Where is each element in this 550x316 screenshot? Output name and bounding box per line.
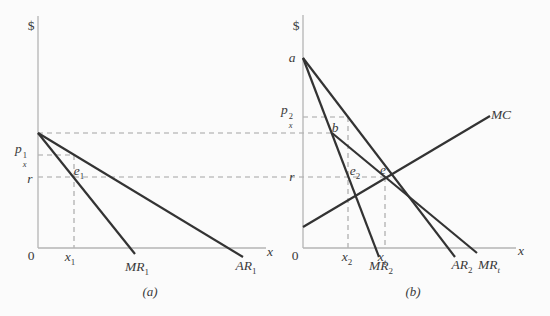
ar1-curve [38, 133, 243, 257]
axes [38, 15, 516, 248]
equilibrium2-label: e2 [350, 164, 361, 178]
ar1-label: AR1 [236, 259, 257, 273]
panel-a-caption: (a) [142, 285, 157, 298]
mr2-label: MR2 [369, 259, 393, 273]
quantity2-label: x2 [342, 250, 353, 264]
mr-total-label: MRt [478, 258, 500, 272]
rent-label-b: r [289, 170, 294, 184]
curves-panel-a [38, 133, 243, 257]
mr2-curve [303, 58, 379, 257]
mc-label: MC [491, 108, 511, 122]
mr1-label: MR1 [125, 260, 149, 274]
ar2-label: AR2 [452, 258, 473, 272]
economics-figure: $ p1x r e1 0 x1 MR1 AR1 x (a) $ a p2x b … [0, 0, 550, 316]
price2-label: p2x [281, 103, 293, 129]
kink-b-label: b [332, 121, 339, 135]
price1-label: p1x [15, 142, 27, 168]
rent-label-a: r [27, 172, 32, 186]
x-axis-label-b: x [518, 244, 524, 258]
panel-b-caption: (b) [405, 285, 420, 298]
equilibrium-total-label: e [380, 163, 386, 177]
curves-panel-b [303, 58, 490, 257]
dollar-axis-label-a: $ [28, 19, 35, 33]
mr1-curve [38, 133, 135, 254]
origin-label-b: 0 [292, 249, 299, 263]
equilibrium1-label: e1 [74, 164, 85, 178]
x-axis-label-a: x [267, 245, 273, 259]
quantity1-label: x1 [65, 250, 76, 264]
dollar-axis-label-b: $ [293, 19, 300, 33]
intercept-a-label: a [289, 51, 296, 65]
origin-label-a: 0 [28, 249, 35, 263]
ar2-curve [303, 58, 455, 257]
